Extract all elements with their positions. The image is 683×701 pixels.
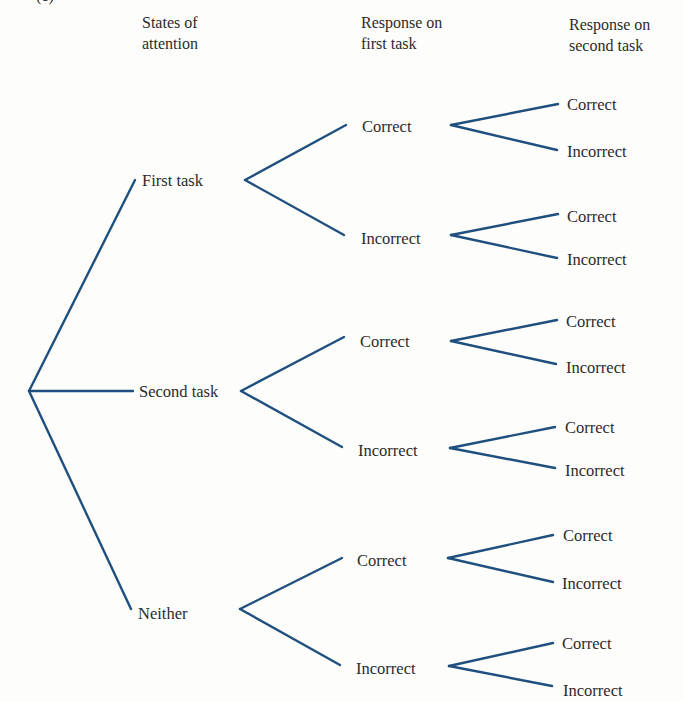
first-response-incorrect: Incorrect [356,659,416,679]
edge-ft-i-correct [451,214,558,235]
first-response-incorrect: Incorrect [361,229,421,249]
second-response-correct: Correct [563,526,612,546]
state-second-task: Second task [139,382,218,402]
edge-first-task-correct [245,125,346,180]
edge-neither-incorrect [240,609,340,665]
edge-root-neither [29,391,131,609]
edge-n-i-correct [449,643,553,666]
attention-tree-diagram: (c) States of attention Response on firs… [0,0,683,701]
second-response-incorrect: Incorrect [563,681,623,701]
edge-ft-c-incorrect [451,125,557,150]
second-response-incorrect: Incorrect [565,461,625,481]
first-response-incorrect: Incorrect [358,441,418,461]
edge-n-c-incorrect [448,558,553,582]
second-response-correct: Correct [567,207,616,227]
second-response-correct: Correct [565,418,614,438]
edge-root-first-task [29,180,135,391]
second-response-incorrect: Incorrect [567,142,627,162]
edge-second-task-correct [241,337,344,391]
first-response-correct: Correct [357,551,406,571]
edge-n-i-incorrect [449,666,552,686]
second-response-correct: Correct [562,634,611,654]
second-response-correct: Correct [566,312,615,332]
state-neither: Neither [138,604,187,624]
first-response-correct: Correct [362,117,411,137]
state-first-task: First task [142,171,203,191]
edge-n-c-correct [448,535,553,558]
edge-st-i-correct [450,427,555,448]
first-response-correct: Correct [360,332,409,352]
edge-second-task-incorrect [241,391,342,447]
edge-neither-correct [240,558,342,609]
edge-st-c-incorrect [451,341,556,364]
second-response-incorrect: Incorrect [566,358,626,378]
second-response-incorrect: Incorrect [562,574,622,594]
second-response-incorrect: Incorrect [567,250,627,270]
edge-first-task-incorrect [245,180,344,235]
second-response-correct: Correct [567,95,616,115]
edge-st-c-correct [451,320,557,341]
edge-st-i-incorrect [450,448,555,468]
edge-ft-c-correct [451,104,558,125]
edge-ft-i-incorrect [451,235,557,258]
